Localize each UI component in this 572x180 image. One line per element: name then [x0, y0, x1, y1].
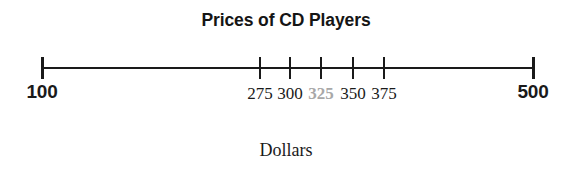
axis-tick-325 [320, 57, 322, 79]
axis-tick-label-275: 275 [247, 85, 273, 103]
axis-tick-label-500: 500 [517, 83, 548, 101]
axis-tick-label-350: 350 [340, 85, 366, 103]
axis-tick-label-375: 375 [371, 85, 397, 103]
axis-tick-label-300: 300 [277, 85, 303, 103]
axis-tick-375 [383, 57, 385, 79]
axis-tick-500 [532, 57, 535, 79]
axis-tick-350 [352, 57, 354, 79]
chart-figure: Prices of CD Players 1002753003253503755… [0, 0, 572, 180]
axis-tick-100 [41, 57, 44, 79]
axis-tick-label-100: 100 [26, 83, 57, 101]
axis-tick-275 [259, 57, 261, 79]
axis-label-dollars: Dollars [0, 140, 572, 161]
axis-line [42, 67, 533, 69]
axis-tick-label-325: 325 [308, 85, 334, 103]
axis-tick-300 [289, 57, 291, 79]
